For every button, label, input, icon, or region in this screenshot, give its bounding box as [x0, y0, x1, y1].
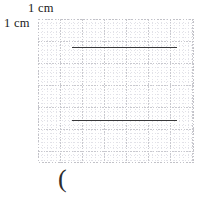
graph-paper-grid: [38, 19, 194, 163]
grid-unit-label-left: 1 cm: [4, 16, 30, 31]
grid-unit-label-top: 1 cm: [28, 1, 54, 16]
caption-paren-mark: (: [58, 166, 67, 192]
grid-lines-svg: [38, 19, 194, 163]
figure-canvas: 1 cm 1 cm (: [0, 0, 210, 200]
upper-segment: [72, 47, 177, 48]
minor-gridlines: [38, 19, 194, 163]
lower-segment: [72, 120, 177, 121]
grid-border: [39, 20, 194, 163]
major-gridlines: [38, 19, 194, 163]
